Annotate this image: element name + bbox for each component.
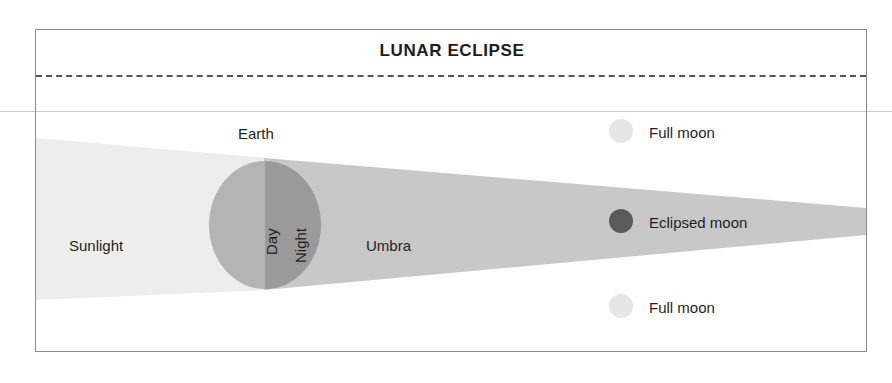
- label-full-moon-top: Full moon: [649, 125, 715, 140]
- eclipse-diagram-svg: [36, 30, 866, 351]
- full-moon-top-icon: [609, 119, 633, 143]
- label-sunlight: Sunlight: [69, 238, 123, 253]
- page-canvas: LUNAR ECLIPSE Sunlight Earth Day N: [0, 0, 892, 383]
- eclipsed-moon-icon: [609, 209, 633, 233]
- label-earth: Earth: [238, 126, 274, 141]
- label-day: Day: [264, 228, 279, 255]
- umbra-cone-shape: [264, 158, 866, 290]
- label-eclipsed-moon: Eclipsed moon: [649, 215, 747, 230]
- lunar-eclipse-figure: LUNAR ECLIPSE Sunlight Earth Day N: [35, 29, 867, 352]
- label-umbra: Umbra: [366, 238, 411, 253]
- label-night: Night: [293, 228, 308, 263]
- eclipse-diagram: Sunlight Earth Day Night Umbra Full moon…: [36, 30, 866, 351]
- label-full-moon-bottom: Full moon: [649, 300, 715, 315]
- full-moon-bottom-icon: [609, 294, 633, 318]
